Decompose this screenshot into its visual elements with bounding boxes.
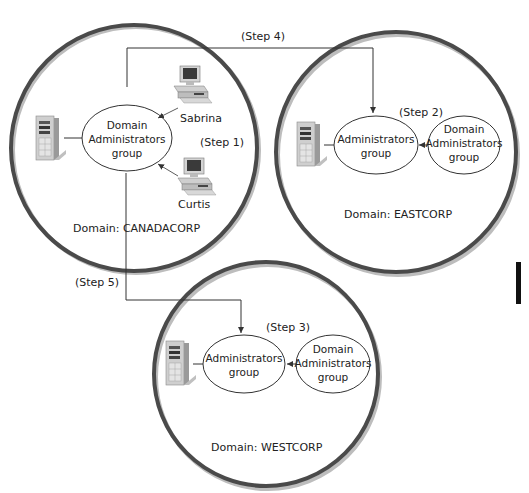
user-sabrina-label: Sabrina (180, 112, 222, 125)
group-line-2: Administrators (294, 357, 371, 369)
connector-step-5 (126, 173, 241, 333)
page-edge-tab (516, 262, 521, 304)
group-line-1: Administrators (205, 352, 282, 364)
westcorp-administrators-group (203, 335, 285, 393)
step-2-label: (Step 2) (399, 106, 443, 119)
desktop-computer-icon (174, 66, 212, 103)
server-tower-icon (297, 122, 327, 166)
group-line-3: group (112, 147, 143, 159)
group-line-1: Domain (313, 343, 354, 355)
server-tower-icon (36, 116, 66, 160)
step-4-label: (Step 4) (241, 30, 285, 43)
step-1-label: (Step 1) (200, 136, 244, 149)
group-line-3: group (318, 371, 349, 383)
group-line-1: Domain (444, 123, 485, 135)
group-line-1: Administrators (337, 133, 414, 145)
group-line-2: group (229, 366, 260, 378)
server-tower-icon (166, 341, 196, 385)
group-line-2: Administrators (88, 133, 165, 145)
step-5-label: (Step 5) (75, 276, 119, 289)
group-line-1: Domain (107, 119, 148, 131)
domain-label-eastcorp: Domain: EASTCORP (344, 208, 452, 221)
eastcorp-administrators-group (334, 116, 418, 174)
desktop-computer-icon (178, 158, 216, 195)
user-curtis-label: Curtis (178, 198, 211, 211)
step-3-label: (Step 3) (266, 321, 310, 334)
group-line-2: Administrators (425, 137, 502, 149)
trust-diagram: Domain Administrators group Sabrina Curt… (0, 0, 529, 493)
domain-label-westcorp: Domain: WESTCORP (211, 441, 323, 454)
domain-label-canadacorp: Domain: CANADACORP (73, 222, 200, 235)
group-line-2: group (361, 147, 392, 159)
group-line-3: group (449, 151, 480, 163)
